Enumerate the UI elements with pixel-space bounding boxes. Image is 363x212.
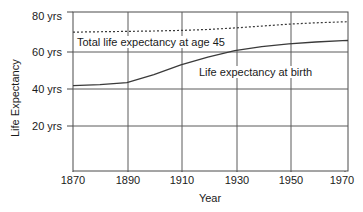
life-expectancy-chart: 80 yrs 60 yrs 40 yrs 20 yrs 1870 1890 19… xyxy=(0,0,363,212)
y-tick-marks xyxy=(67,12,73,126)
series-annotation-at-birth: Life expectancy at birth xyxy=(198,66,313,78)
series-annotation-total-at-45: Total life expectancy at age 45 xyxy=(76,36,226,48)
plot-canvas xyxy=(0,0,363,212)
